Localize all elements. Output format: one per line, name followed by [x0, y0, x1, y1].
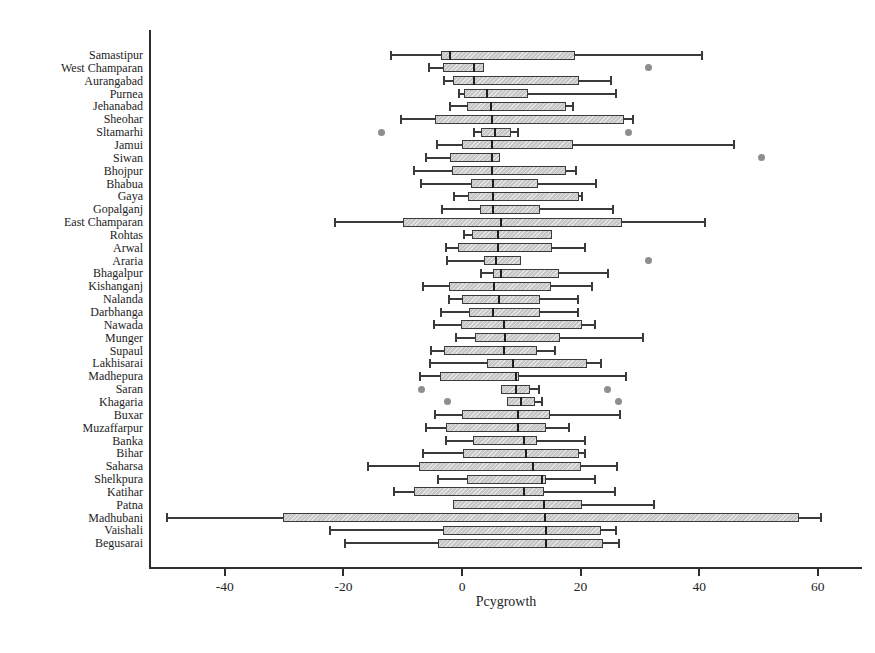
- median-line: [503, 346, 505, 355]
- boxplot-figure: Pcygrowth SamastipurWest ChamparanAurang…: [0, 0, 875, 653]
- whisker-left-cap: [430, 346, 432, 355]
- whisker-left-cap: [453, 192, 455, 201]
- median-line: [491, 140, 493, 149]
- whisker-left-line: [391, 54, 441, 56]
- outlier-dot: [418, 386, 425, 393]
- whisker-right-cap: [632, 115, 634, 124]
- whisker-right-line: [546, 478, 595, 480]
- iqr-box: [471, 179, 539, 188]
- y-axis-line: [149, 30, 151, 569]
- median-line: [541, 475, 543, 484]
- x-tick-label: -20: [334, 579, 352, 595]
- whisker-left-cap: [420, 179, 422, 188]
- whisker-right-cap: [575, 166, 577, 175]
- iqr-box: [473, 436, 537, 445]
- median-line: [545, 539, 547, 548]
- whisker-left-cap: [446, 256, 448, 265]
- whisker-right-line: [537, 440, 585, 442]
- iqr-box: [464, 89, 529, 98]
- whisker-right-line: [540, 208, 612, 210]
- whisker-left-line: [435, 414, 462, 416]
- whisker-right-cap: [595, 179, 597, 188]
- whisker-left-cap: [425, 153, 427, 162]
- whisker-left-line: [444, 80, 453, 82]
- iqr-box: [468, 192, 579, 201]
- whisker-left-cap: [390, 51, 392, 60]
- whisker-left-cap: [393, 487, 395, 496]
- outlier-dot: [645, 257, 652, 264]
- x-axis-tick: [817, 569, 819, 576]
- whisker-left-cap: [334, 218, 336, 227]
- whisker-left-cap: [329, 526, 331, 535]
- x-tick-label: 40: [692, 579, 706, 595]
- median-line: [532, 462, 534, 471]
- whisker-right-cap: [538, 385, 540, 394]
- outlier-dot: [758, 154, 765, 161]
- whisker-right-cap: [612, 205, 614, 214]
- whisker-left-cap: [400, 115, 402, 124]
- whisker-right-line: [575, 54, 702, 56]
- median-line: [497, 243, 499, 252]
- whisker-left-cap: [458, 89, 460, 98]
- iqr-box: [480, 205, 540, 214]
- iqr-box: [475, 333, 560, 342]
- whisker-right-line: [601, 529, 616, 531]
- whisker-right-line: [799, 517, 821, 519]
- whisker-right-cap: [577, 308, 579, 317]
- whisker-left-cap: [463, 230, 465, 239]
- whisker-right-line: [551, 285, 593, 287]
- median-line: [515, 385, 517, 394]
- whisker-right-line: [581, 465, 617, 467]
- whisker-left-line: [474, 131, 481, 133]
- iqr-box: [472, 230, 551, 239]
- x-axis-title: Pcygrowth: [150, 594, 862, 610]
- outlier-dot: [645, 64, 652, 71]
- whisker-left-cap: [455, 333, 457, 342]
- whisker-left-cap: [436, 140, 438, 149]
- whisker-left-line: [429, 67, 443, 69]
- iqr-box: [444, 346, 537, 355]
- whisker-right-line: [538, 183, 596, 185]
- median-line: [490, 102, 492, 111]
- iqr-box: [462, 140, 573, 149]
- x-axis-tick: [580, 569, 582, 576]
- median-line: [500, 218, 502, 227]
- iqr-box: [467, 475, 546, 484]
- median-line: [512, 359, 514, 368]
- whisker-left-cap: [433, 320, 435, 329]
- whisker-left-line: [441, 311, 469, 313]
- whisker-right-cap: [820, 513, 822, 522]
- median-line: [486, 89, 488, 98]
- whisker-right-cap: [701, 51, 703, 60]
- whisker-right-line: [582, 504, 654, 506]
- whisker-left-line: [481, 272, 493, 274]
- whisker-left-line: [345, 542, 438, 544]
- median-line: [515, 372, 517, 381]
- whisker-left-line: [446, 247, 458, 249]
- whisker-right-cap: [733, 140, 735, 149]
- whisker-right-line: [540, 298, 579, 300]
- whisker-left-line: [449, 298, 462, 300]
- iqr-box: [461, 320, 582, 329]
- whisker-right-cap: [594, 475, 596, 484]
- whisker-right-line: [519, 375, 626, 377]
- whisker-left-line: [167, 517, 283, 519]
- whisker-left-line: [442, 208, 481, 210]
- outlier-dot: [615, 398, 622, 405]
- iqr-box: [453, 500, 582, 509]
- whisker-left-line: [438, 478, 467, 480]
- outlier-dot: [444, 398, 451, 405]
- x-axis-tick: [342, 569, 344, 576]
- median-line: [520, 397, 522, 406]
- median-line: [525, 449, 527, 458]
- whisker-right-line: [544, 491, 615, 493]
- whisker-right-line: [546, 427, 569, 429]
- whisker-left-cap: [443, 76, 445, 85]
- whisker-right-cap: [614, 487, 616, 496]
- whisker-right-cap: [618, 539, 620, 548]
- whisker-right-line: [528, 93, 616, 95]
- iqr-box: [467, 102, 566, 111]
- whisker-left-line: [330, 529, 443, 531]
- x-axis-tick: [461, 569, 463, 576]
- whisker-right-line: [587, 362, 601, 364]
